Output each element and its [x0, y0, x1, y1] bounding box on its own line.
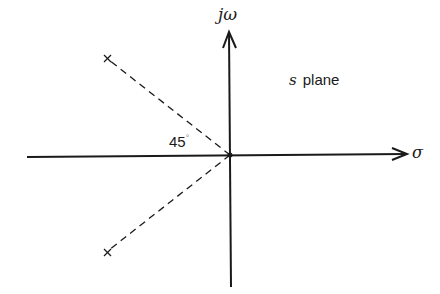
jw-axis-label: jω — [218, 4, 237, 24]
upper-pole-x-icon — [104, 55, 111, 62]
degree-symbol: ° — [186, 133, 190, 143]
sigma-axis-label: σ — [412, 143, 423, 162]
s-plane-svg — [0, 0, 440, 294]
s-variable: s — [289, 71, 297, 89]
lower-pole-x-icon — [104, 249, 111, 256]
s-plane-diagram: jω σ splane 45° — [0, 0, 440, 294]
angle-annotation: 45° — [169, 133, 189, 150]
s-plane-label: splane — [289, 71, 339, 89]
lower-pole-dashed-line — [109, 155, 230, 250]
angle-value: 45 — [169, 133, 186, 150]
sigma-axis — [27, 148, 407, 160]
plane-text: plane — [303, 71, 340, 88]
